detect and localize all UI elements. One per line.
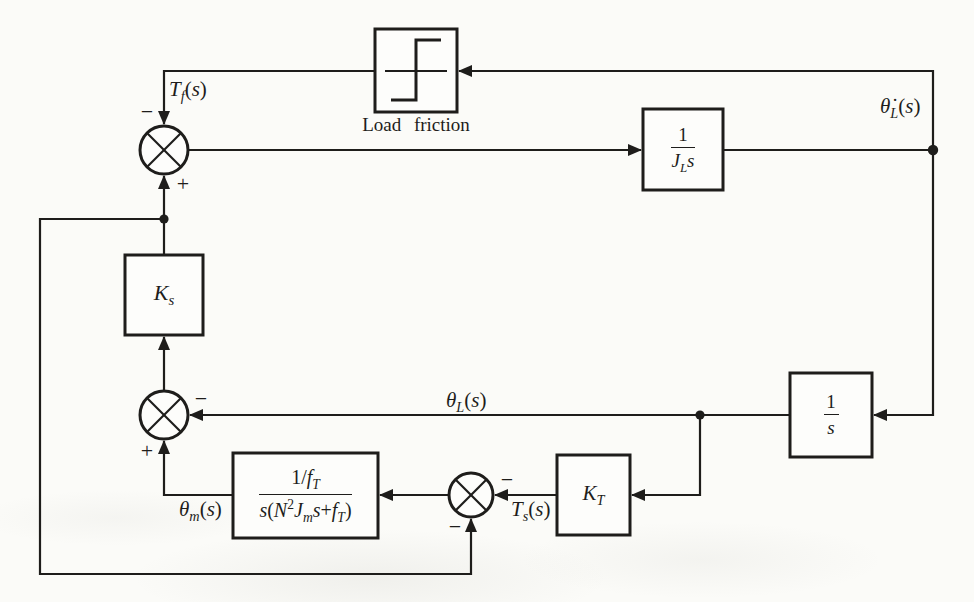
summing-junction-1 (140, 126, 188, 174)
sum2-bottom-sign: + (141, 440, 153, 462)
gain-kt-label: KT (583, 481, 605, 509)
gain-ks-label-box: Ks (125, 255, 203, 335)
sum3-right-sign: − (501, 469, 513, 491)
gain-ks-label: Ks (154, 280, 175, 309)
fraction-bar (259, 494, 351, 495)
integrator-numerator: 1 (826, 391, 836, 412)
load-inertia-numerator: 1 (678, 124, 688, 145)
gain-kt-label-box: KT (557, 455, 630, 535)
pickoff-node-right (928, 145, 938, 155)
sum1-top-sign: − (141, 101, 153, 123)
wire-node-to-gain-kt (632, 415, 700, 495)
block-diagram-figure: Tf(s) θ̇L(s) θL(s) θm(s) Ts(s) Load fric… (0, 0, 974, 602)
label-ts: Ts(s) (511, 497, 550, 525)
load-inertia-denominator: JLs (671, 150, 694, 175)
pickoff-node-left (159, 214, 168, 223)
label-theta-l: θL(s) (446, 388, 486, 416)
load-friction-caption: Load friction (346, 114, 486, 136)
fraction-bar (824, 414, 839, 415)
sum3-bottom-sign: − (449, 516, 461, 538)
summing-junction-3 (449, 473, 493, 517)
fraction-bar (671, 147, 694, 148)
load-inertia-tf: 1 JLs (643, 109, 723, 190)
label-tf: Tf(s) (169, 77, 207, 105)
summing-junction-2 (140, 391, 188, 439)
integrator-denominator: s (827, 417, 834, 438)
integrator-tf: 1 s (790, 373, 872, 457)
pickoff-node-theta-l (695, 410, 704, 419)
motor-geartrain-tf: 1/fT s(N2Jms+fT) (233, 453, 378, 538)
wire-motor-to-sum2 (164, 441, 233, 495)
label-theta-l-dot: θ̇L(s) (880, 94, 920, 122)
sum2-right-sign: − (195, 388, 207, 410)
motor-denominator: s(N2Jms+fT) (259, 497, 351, 525)
sum1-bottom-sign: + (177, 173, 189, 195)
motor-numerator: 1/fT (291, 466, 320, 492)
wire-node-to-integrator (874, 150, 933, 415)
label-theta-m: θm(s) (179, 497, 222, 525)
